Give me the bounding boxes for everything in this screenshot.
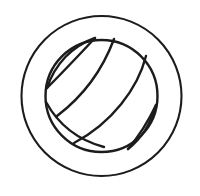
volleyball-icon xyxy=(0,0,200,196)
background-rect xyxy=(0,0,200,196)
icon-canvas xyxy=(0,0,200,196)
